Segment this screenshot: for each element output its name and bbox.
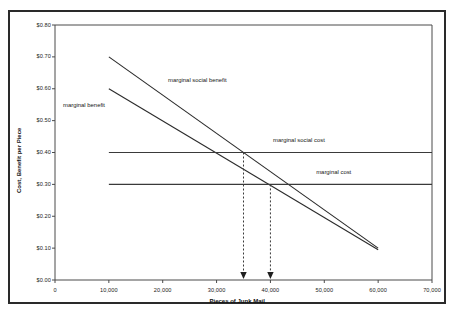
y-axis-tick-label: $0.00: [13, 277, 51, 283]
y-axis-tick-label: $0.80: [13, 22, 51, 28]
chart-canvas: $0.00$0.10$0.20$0.30$0.40$0.50$0.60$0.70…: [10, 12, 444, 302]
y-axis-tick-label: $0.60: [13, 85, 51, 91]
x-axis-tick-label: 30,000: [197, 287, 237, 293]
series-label-marginal-social-cost: marginal social cost: [273, 137, 325, 143]
y-axis-tick-label: $0.20: [13, 213, 51, 219]
y-axis-tick-label: $0.50: [13, 117, 51, 123]
series-label-marginal-benefit: marginal benefit: [63, 102, 105, 108]
x-axis-tick-label: 10,000: [89, 287, 129, 293]
x-axis-tick-label: 40,000: [250, 287, 290, 293]
market-equilibrium-drop-arrow-head: [267, 272, 273, 279]
x-axis-tick-label: 20,000: [143, 287, 183, 293]
series-label-marginal-cost: marginal cost: [316, 169, 351, 175]
figure-frame: $0.00$0.10$0.20$0.30$0.40$0.50$0.60$0.70…: [8, 10, 446, 304]
x-axis-tick-label: 0: [35, 287, 75, 293]
y-axis-title: Cost, Benefit per Piece: [16, 127, 22, 192]
x-axis-tick-label: 50,000: [304, 287, 344, 293]
y-axis-tick-label: $0.10: [13, 245, 51, 251]
x-axis-title: Pieces of Junk Mail: [210, 298, 265, 304]
drop-arrows: [240, 153, 273, 280]
x-axis-tick-label: 60,000: [358, 287, 398, 293]
x-axis-tick-label: 70,000: [412, 287, 452, 293]
screenshot-root: $0.00$0.10$0.20$0.30$0.40$0.50$0.60$0.70…: [0, 0, 456, 315]
social-optimum-drop-arrow-head: [240, 272, 246, 279]
y-axis-tick-label: $0.70: [13, 53, 51, 59]
chart-plot-svg: [10, 12, 444, 302]
series-label-marginal-social-benefit: marginal social benefit: [168, 77, 227, 83]
